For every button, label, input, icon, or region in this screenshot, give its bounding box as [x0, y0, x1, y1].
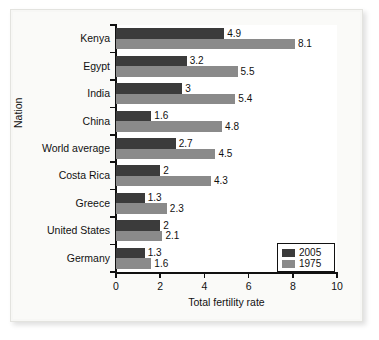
x-tick — [336, 273, 338, 278]
bar-value-label: 3 — [185, 84, 191, 94]
bar-value-label: 2.1 — [165, 231, 179, 241]
x-tick — [248, 273, 250, 278]
y-tick — [110, 134, 115, 136]
category-label: Greece — [76, 198, 110, 209]
bar-value-label: 4.3 — [214, 176, 228, 186]
bar — [116, 111, 151, 122]
x-tick — [292, 273, 294, 278]
x-axis-title: Total fertility rate — [116, 296, 337, 308]
bar-value-label: 4.5 — [218, 149, 232, 159]
y-tick — [110, 52, 115, 54]
y-tick — [110, 189, 115, 191]
bar — [116, 248, 145, 259]
x-tick — [159, 273, 161, 278]
legend: 2005 1975 — [277, 243, 335, 272]
bar-value-label: 5.5 — [241, 67, 255, 77]
category-label-item: Germany — [0, 253, 110, 264]
chart-figure: KenyaEgyptIndiaChinaWorld averageCosta R… — [0, 0, 379, 340]
y-tick — [110, 216, 115, 218]
x-tick-label: 2 — [148, 280, 172, 292]
y-tick — [110, 79, 115, 81]
legend-swatch-1975-icon — [282, 260, 295, 268]
category-label-item: Kenya — [0, 33, 110, 44]
legend-label-1975: 1975 — [299, 259, 321, 269]
bar — [116, 203, 167, 214]
x-tick — [115, 273, 117, 278]
bar — [116, 94, 235, 105]
bar-value-label: 3.2 — [190, 56, 204, 66]
category-label: Costa Rica — [59, 170, 110, 181]
x-tick-label: 10 — [325, 280, 349, 292]
category-label: China — [83, 116, 110, 127]
bar-value-label: 1.6 — [154, 259, 168, 269]
bar — [116, 165, 160, 176]
category-label: India — [87, 88, 110, 99]
bar — [116, 28, 224, 39]
category-label-item: Greece — [0, 198, 110, 209]
category-label: World average — [42, 143, 110, 154]
bar — [116, 138, 176, 149]
bar — [116, 258, 151, 269]
bar-value-label: 2 — [163, 221, 169, 231]
bar-value-label: 4.9 — [227, 29, 241, 39]
bar-value-label: 2 — [163, 166, 169, 176]
x-tick — [204, 273, 206, 278]
legend-label-2005: 2005 — [299, 248, 321, 258]
bar — [116, 66, 238, 77]
category-label-item: Costa Rica — [0, 170, 110, 181]
bar — [116, 220, 160, 231]
bar-value-label: 5.4 — [238, 94, 252, 104]
x-tick-label: 0 — [104, 280, 128, 292]
y-tick — [110, 24, 115, 26]
bar-value-label: 1.6 — [154, 111, 168, 121]
bar-value-label: 1.3 — [148, 193, 162, 203]
x-tick-label: 4 — [192, 280, 216, 292]
bar-value-label: 8.1 — [298, 39, 312, 49]
bar-value-label: 1.3 — [148, 248, 162, 258]
category-label-item: United States — [0, 225, 110, 236]
bar — [116, 83, 182, 94]
category-label-item: World average — [0, 143, 110, 154]
bar — [116, 56, 187, 67]
bar — [116, 149, 215, 160]
category-label: Egypt — [83, 61, 110, 72]
y-tick — [110, 244, 115, 246]
bar — [116, 176, 211, 187]
y-axis-title: Nation — [12, 98, 24, 128]
legend-swatch-2005-icon — [282, 249, 295, 257]
bar — [116, 193, 145, 204]
y-tick — [110, 271, 115, 273]
x-tick-label: 6 — [237, 280, 261, 292]
x-tick-label: 8 — [281, 280, 305, 292]
category-label-item: Egypt — [0, 61, 110, 72]
bar — [116, 231, 162, 242]
category-label: United States — [47, 225, 110, 236]
x-axis-line — [115, 272, 338, 274]
y-tick — [110, 161, 115, 163]
category-label: Germany — [67, 253, 110, 264]
bar — [116, 121, 222, 132]
y-tick — [110, 107, 115, 109]
bar-value-label: 2.3 — [170, 204, 184, 214]
bar-value-label: 4.8 — [225, 122, 239, 132]
bar-value-label: 2.7 — [179, 139, 193, 149]
category-label: Kenya — [80, 33, 110, 44]
bar — [116, 39, 295, 50]
